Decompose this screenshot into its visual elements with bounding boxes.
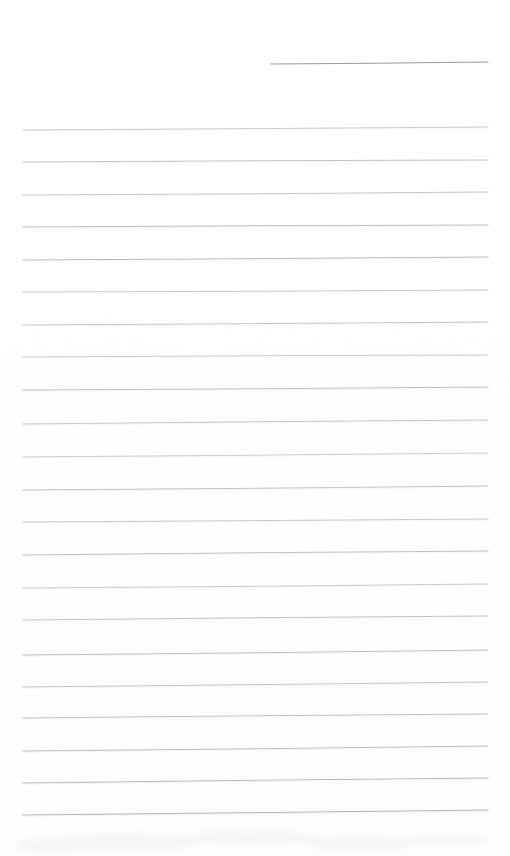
short-header-line (0, 0, 510, 856)
short-header-line-stroke (271, 62, 488, 64)
scanned-page (0, 0, 510, 856)
